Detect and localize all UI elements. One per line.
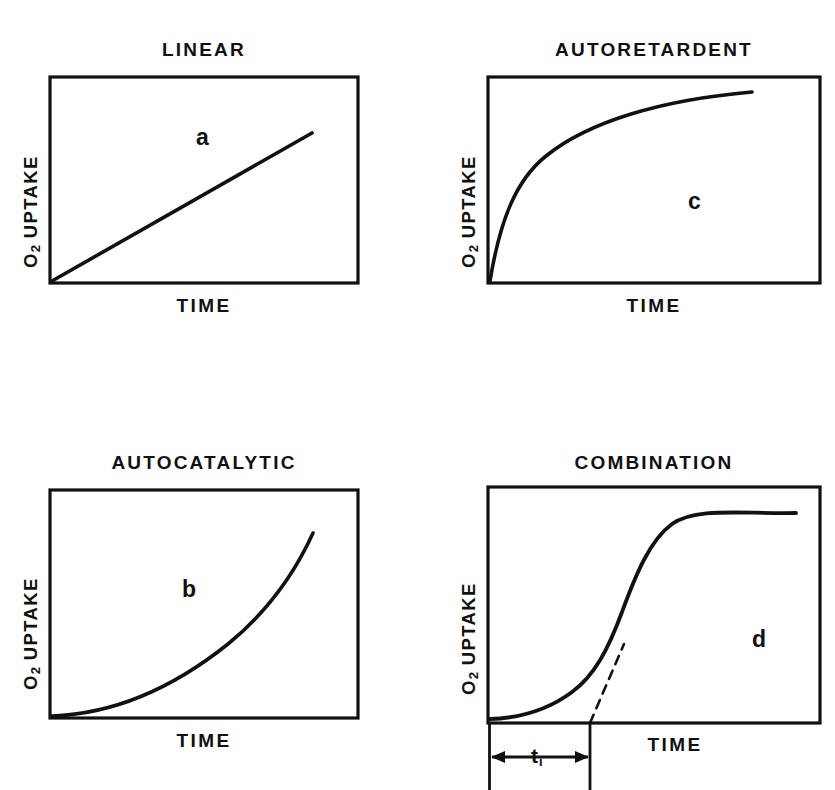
panel-d-ylabel-main: UPTAKE [458,582,479,672]
panel-a-ylabel-sub: 2 [28,245,43,252]
panel-b-xlabel: TIME [50,731,358,750]
panel-a-ylabel-main: UPTAKE [20,155,41,245]
panel-d-xlabel: TIME [610,735,740,754]
panel-c-xlabel: TIME [488,296,820,315]
panel-a-plot [0,0,835,790]
panel-d-induction-arrow-right-head [575,751,589,763]
panel-a-xlabel: TIME [50,296,358,315]
panel-b-curve [52,533,313,716]
panel-c-curve [490,92,752,281]
panel-a-curve-letter: a [196,126,209,149]
panel-a-ylabel: O2 UPTAKE [22,155,42,268]
panel-d-curve-letter: d [752,628,766,651]
panel-d-plot [0,0,835,790]
kinetics-figure: LINEAR O2 UPTAKE a TIME AUTORETARDENT O2… [0,0,835,790]
panel-d-frame [488,487,820,723]
panel-d-ylabel: O2 UPTAKE [460,582,480,695]
panel-d-ylabel-sub: 2 [466,672,481,679]
panel-d-ylabel-prefix: O [458,679,479,695]
panel-d-curve [490,512,796,719]
panel-a-title: LINEAR [50,40,358,59]
panel-c-ylabel-prefix: O [458,252,479,268]
panel-b-frame [50,490,358,718]
panel-d-induction-label: ti [531,745,543,768]
panel-a-frame [50,77,358,283]
panel-c-ylabel: O2 UPTAKE [460,155,480,268]
panel-a-curve [52,133,312,281]
panel-b-ylabel: O2 UPTAKE [22,577,42,690]
panel-d-induction-label-sub: i [538,754,543,769]
panel-a-ylabel-prefix: O [20,252,41,268]
panel-b-ylabel-main: UPTAKE [20,577,41,667]
panel-d-induction-arrow-left-head [491,751,505,763]
panel-c-ylabel-sub: 2 [466,245,481,252]
panel-c-ylabel-main: UPTAKE [458,155,479,245]
panel-b-title: AUTOCATALYTIC [50,453,358,472]
panel-b-ylabel-prefix: O [20,674,41,690]
panel-d-induction-label-text: t [531,744,538,767]
panel-d-tangent-dashed [590,644,624,723]
panel-c-frame [488,77,820,283]
panel-c-plot [0,0,835,790]
panel-b-curve-letter: b [182,578,196,601]
panel-c-curve-letter: c [688,190,701,213]
panel-b-ylabel-sub: 2 [28,667,43,674]
panel-d-title: COMBINATION [488,453,820,472]
panel-b-plot [0,0,835,790]
panel-c-title: AUTORETARDENT [488,40,820,59]
